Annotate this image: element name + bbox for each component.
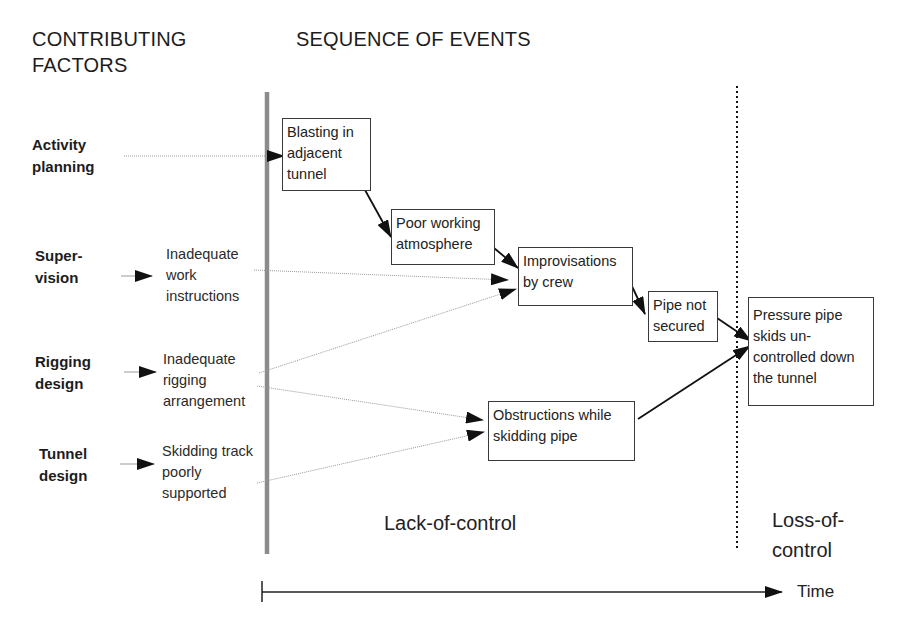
factor-supervision: Super- vision [35,245,83,289]
cause-line: Inadequate [163,349,245,370]
connector-rigging-obstructions [257,386,483,420]
factor-activity-planning: Activity planning [32,134,95,178]
event-line: Poor working [396,213,490,234]
factor-tunnel-design: Tunnel design [39,443,87,487]
event-line: the tunnel [753,368,869,389]
event-line: by crew [523,272,628,293]
event-blasting-adjacent-tunnel: Blasting in adjacent tunnel [282,118,371,191]
factor-label-line: Tunnel [39,443,87,465]
event-line: secured [653,316,713,337]
event-line: Obstructions while [493,405,630,426]
cause-line: instructions [166,286,239,307]
event-line: atmosphere [396,234,490,255]
event-improvisations-by-crew: Improvisations by crew [518,247,633,306]
event-line: skidding pipe [493,426,630,447]
phase-loss-of-control: Loss-of- control [772,505,844,565]
time-axis-label: Time [797,582,834,602]
cause-line: arrangement [163,391,245,412]
phase-lack-of-control: Lack-of-control [384,508,516,538]
cause-line: work [166,265,239,286]
cause-inadequate-work-instructions: Inadequate work instructions [166,244,239,307]
event-line: controlled down [753,347,869,368]
cause-inadequate-rigging-arrangement: Inadequate rigging arrangement [163,349,245,412]
factor-rigging-design: Rigging design [35,351,91,395]
cause-line: poorly [162,462,253,483]
event-line: Pipe not [653,295,713,316]
connector-rigging-improvisations [259,289,516,373]
event-line: Pressure pipe [753,305,869,326]
cause-line: Inadequate [166,244,239,265]
event-line: skids un- [753,326,869,347]
factor-label-line: Activity [32,134,95,156]
factor-label-line: design [35,373,91,395]
event-line: Improvisations [523,251,628,272]
cause-skidding-track-poorly-supported: Skidding track poorly supported [162,441,253,504]
event-obstructions-while-skidding: Obstructions while skidding pipe [488,401,635,461]
cause-line: supported [162,483,253,504]
event-line: Blasting in [287,122,366,143]
factor-label-line: design [39,465,87,487]
phase-line: control [772,535,844,565]
event-line: adjacent [287,143,366,164]
connector-skidding-obstructions [257,432,484,483]
connector-blasting-atmosphere [365,190,391,237]
connector-pipe-pressure [717,318,751,341]
factor-label-line: vision [35,267,83,289]
event-pipe-not-secured: Pipe not secured [648,291,718,342]
event-poor-working-atmosphere: Poor working atmosphere [391,209,495,265]
connector-obstructions-pressure [638,346,750,419]
connector-atmosphere-improvisations [494,248,518,268]
cause-line: Skidding track [162,441,253,462]
cause-line: rigging [163,370,245,391]
factor-label-line: Rigging [35,351,91,373]
event-pressure-pipe-skids: Pressure pipe skids un- controlled down … [748,297,874,406]
connector-work-instructions-improvisations [254,270,508,280]
factor-label-line: planning [32,156,95,178]
factor-label-line: Super- [35,245,83,267]
phase-line: Loss-of- [772,505,844,535]
event-line: tunnel [287,164,366,185]
